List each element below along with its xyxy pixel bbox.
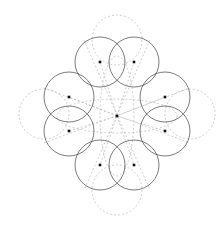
dot-center bbox=[116, 115, 119, 118]
dot-top-right bbox=[133, 61, 136, 64]
figure-canvas bbox=[0, 0, 222, 226]
dot-right-upper bbox=[164, 96, 167, 99]
canvas-background bbox=[0, 0, 222, 226]
geometry-diagram bbox=[0, 0, 222, 226]
dot-right-lower bbox=[164, 130, 167, 133]
dot-left-upper bbox=[68, 96, 71, 99]
dot-left-lower bbox=[68, 130, 71, 133]
dot-bottom-left bbox=[99, 164, 102, 167]
dot-bottom-right bbox=[133, 164, 136, 167]
dot-top-left bbox=[99, 61, 102, 64]
